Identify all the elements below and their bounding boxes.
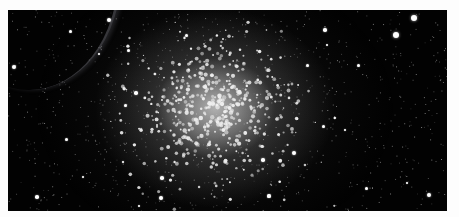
star-cluster-photo	[8, 10, 447, 211]
bright-star	[127, 49, 130, 52]
bright-star	[292, 151, 296, 155]
bright-star	[261, 158, 265, 162]
bright-star	[12, 65, 16, 69]
bright-star	[393, 32, 399, 38]
bright-star	[365, 187, 368, 190]
bright-star	[65, 138, 68, 141]
bright-star	[322, 125, 325, 128]
bright-star	[35, 195, 39, 199]
bright-star	[306, 64, 309, 67]
bright-star	[124, 104, 127, 107]
bright-star	[357, 64, 360, 67]
bright-star	[159, 196, 163, 200]
bright-star	[69, 30, 72, 33]
bright-star	[107, 18, 111, 22]
bright-star	[323, 28, 327, 32]
bright-star	[134, 91, 138, 95]
bright-star	[160, 176, 164, 180]
bright-star	[185, 34, 188, 37]
bright-star	[411, 15, 417, 21]
bright-star	[267, 194, 270, 197]
